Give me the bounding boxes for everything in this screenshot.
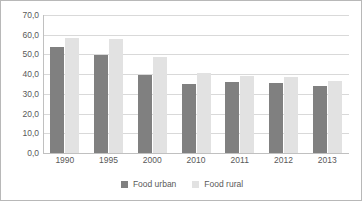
bar-group	[43, 15, 87, 153]
bar-urban[interactable]	[182, 84, 196, 153]
y-axis-tick-label: 10,0	[3, 129, 39, 138]
bar-urban[interactable]	[269, 83, 283, 153]
x-axis-tick-label: 2011	[218, 156, 262, 165]
legend-swatch-icon	[192, 181, 199, 188]
y-axis-tick-label: 40,0	[3, 70, 39, 79]
legend-entry-food-urban[interactable]: Food urban	[121, 180, 176, 189]
bar-rural[interactable]	[197, 73, 211, 153]
y-axis-tick-label: 60,0	[3, 30, 39, 39]
bar-rural[interactable]	[240, 76, 254, 153]
bar-rural[interactable]	[153, 57, 167, 153]
y-axis-labels: 70,0 60,0 50,0 40,0 30,0 20,0 10,0 0,0	[1, 15, 39, 153]
x-axis-tick-label: 1995	[87, 156, 131, 165]
bar-group	[218, 15, 262, 153]
bar-rural[interactable]	[65, 38, 79, 153]
x-axis-tick-label: 2010	[174, 156, 218, 165]
x-axis-tick-label: 2013	[305, 156, 349, 165]
legend-label: Food rural	[204, 180, 243, 189]
bar-group	[174, 15, 218, 153]
y-axis-tick-label: 20,0	[3, 109, 39, 118]
bar-urban[interactable]	[50, 47, 64, 153]
bar-urban[interactable]	[94, 55, 108, 153]
bar-rural[interactable]	[109, 39, 123, 153]
bar-chart: 70,0 60,0 50,0 40,0 30,0 20,0 10,0 0,0	[0, 0, 362, 201]
legend-label: Food urban	[133, 180, 176, 189]
bar-urban[interactable]	[138, 75, 152, 153]
chart-legend: Food urban Food rural	[1, 180, 362, 189]
bar-group	[305, 15, 349, 153]
x-axis-tick-label: 1990	[43, 156, 87, 165]
bar-series-layer	[43, 15, 349, 153]
bar-group	[87, 15, 131, 153]
x-axis-labels: 1990 1995 2000 2010 2011 2012 2013	[43, 156, 349, 165]
legend-entry-food-rural[interactable]: Food rural	[192, 180, 243, 189]
bar-urban[interactable]	[313, 86, 327, 153]
bar-rural[interactable]	[284, 77, 298, 153]
y-axis-tick-label: 30,0	[3, 90, 39, 99]
legend-swatch-icon	[121, 181, 128, 188]
bar-group	[262, 15, 306, 153]
bar-group	[130, 15, 174, 153]
bar-rural[interactable]	[328, 81, 342, 153]
x-axis-tick-label: 2012	[262, 156, 306, 165]
gridline-0-baseline	[43, 153, 349, 154]
x-axis-tick-label: 2000	[130, 156, 174, 165]
bar-urban[interactable]	[225, 82, 239, 153]
y-axis-tick-label: 50,0	[3, 50, 39, 59]
y-axis-tick-label: 70,0	[3, 11, 39, 20]
y-axis-tick-label: 0,0	[3, 149, 39, 158]
